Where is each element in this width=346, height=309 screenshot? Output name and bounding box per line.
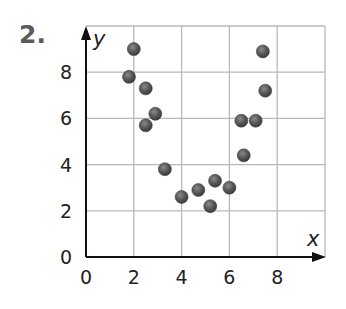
axes: yx: [81, 26, 326, 262]
scatter-plot: yx 0246802468: [0, 0, 346, 309]
y-axis-arrow-icon: [81, 26, 91, 40]
x-axis-label: x: [306, 227, 320, 251]
x-tick-label: 0: [80, 266, 92, 288]
x-tick-label: 2: [128, 266, 140, 288]
y-tick-label: 0: [60, 246, 72, 268]
data-point: [259, 84, 272, 97]
x-tick-label: 6: [223, 266, 235, 288]
data-point: [249, 114, 262, 127]
data-point: [256, 45, 269, 58]
data-point: [235, 114, 248, 127]
y-axis-label: y: [92, 27, 106, 51]
data-point: [123, 70, 136, 83]
y-tick-label: 8: [60, 61, 72, 83]
data-point: [127, 43, 140, 56]
data-point: [209, 174, 222, 187]
grid-lines: [86, 26, 325, 257]
data-point: [192, 184, 205, 197]
data-point: [158, 163, 171, 176]
data-point: [139, 119, 152, 132]
data-point: [175, 190, 188, 203]
data-points: [123, 43, 272, 213]
data-point: [223, 181, 236, 194]
x-tick-label: 8: [271, 266, 283, 288]
data-point: [204, 200, 217, 213]
y-tick-label: 6: [60, 107, 72, 129]
data-point: [139, 82, 152, 95]
data-point: [237, 149, 250, 162]
x-axis-arrow-icon: [312, 252, 326, 262]
x-tick-label: 4: [176, 266, 188, 288]
tick-labels: 0246802468: [60, 61, 283, 288]
data-point: [149, 107, 162, 120]
y-tick-label: 4: [60, 154, 72, 176]
y-tick-label: 2: [60, 200, 72, 222]
